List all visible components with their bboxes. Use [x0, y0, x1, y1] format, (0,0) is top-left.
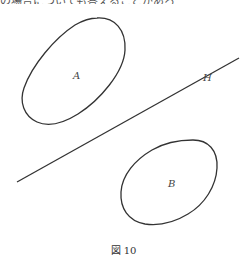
diagram-canvas: [0, 0, 247, 267]
region-b-label: B: [168, 178, 175, 189]
region-a-label: A: [73, 70, 80, 81]
line-h-label: H: [203, 72, 212, 83]
figure-caption: 図 10: [0, 242, 247, 257]
